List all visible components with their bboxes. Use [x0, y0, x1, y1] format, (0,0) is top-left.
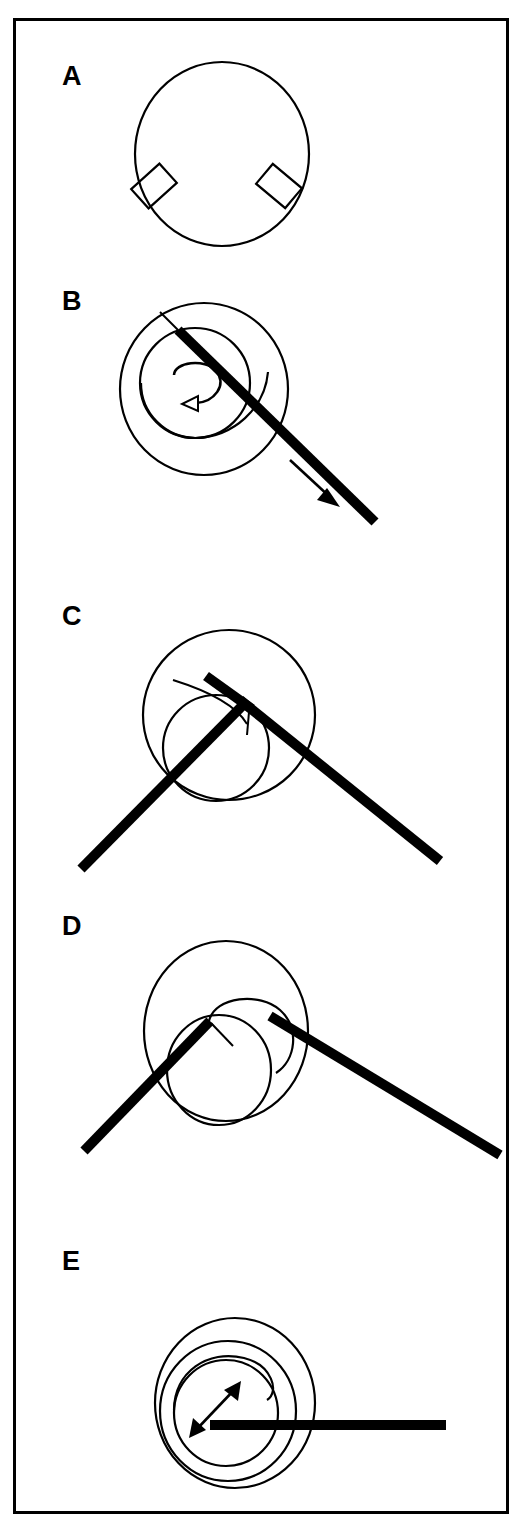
panel-b-thick-line [178, 330, 375, 522]
panel-b-line-tail [160, 312, 178, 330]
panel-a: A [62, 61, 309, 246]
panel-a-right-rectangle [256, 164, 302, 208]
panel-label-b: B [62, 286, 82, 316]
panel-e-outer-circle [155, 1318, 315, 1488]
panel-d-right-arm [270, 1016, 500, 1155]
panel-d-spiral [209, 999, 293, 1073]
panel-c-vertex-tick [247, 712, 249, 735]
panel-b-rotation-arrowhead [182, 396, 198, 411]
panel-c-left-arm [81, 701, 247, 869]
figure-border [15, 20, 508, 1513]
panel-a-main-circle [135, 62, 309, 246]
panel-d-left-arm [84, 1021, 210, 1151]
panel-c-right-arm [240, 700, 440, 861]
figure-root: A B [0, 0, 530, 1537]
panel-d: D [62, 911, 500, 1155]
panel-e: E [62, 1246, 446, 1488]
figure-canvas: A B [0, 0, 530, 1537]
panel-e-inner-circle [174, 1360, 278, 1466]
panel-a-left-rectangle [131, 164, 177, 209]
panel-e-mid-circle [160, 1341, 296, 1481]
panel-d-vertex-tick [211, 1023, 233, 1046]
panel-d-outer-circle [144, 941, 308, 1121]
panel-label-d: D [62, 911, 82, 941]
panel-c: C [62, 601, 440, 869]
panel-label-c: C [62, 601, 82, 631]
panel-label-a: A [62, 61, 82, 91]
panel-b: B [62, 286, 375, 522]
panel-label-e: E [62, 1246, 80, 1276]
panel-c-stub [206, 676, 252, 709]
